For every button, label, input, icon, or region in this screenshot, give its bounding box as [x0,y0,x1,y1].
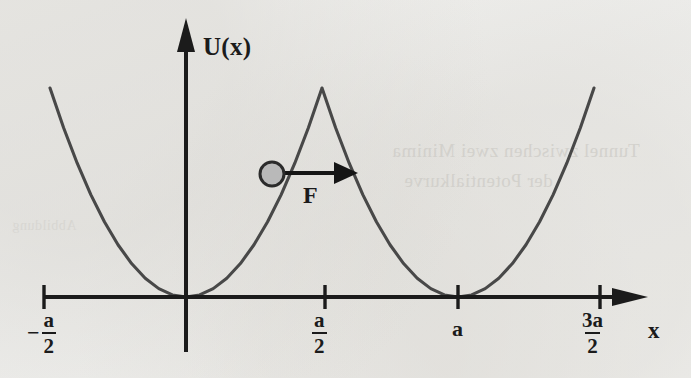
y-axis-arrowhead [177,18,195,52]
force-arrow-head [334,162,358,184]
force-label: F [303,182,318,209]
fraction-a-over-2: a 2 [312,310,327,357]
tick-label-3a-over-2: 3a 2 [580,310,605,357]
tick-label-a: a [452,316,463,342]
minus-sign: − [27,320,40,346]
fraction-3a-over-2: 3a 2 [580,310,605,357]
fraction-neg-a-over-2: a 2 [42,310,57,357]
particle-ball [260,162,284,186]
tick-label-neg-a-over-2: − a 2 [27,310,56,357]
potential-energy-curve [50,88,594,297]
x-axis-arrowhead [612,288,648,306]
x-axis-label: x [648,318,660,344]
tick-label-a-over-2: a 2 [312,310,327,357]
potential-energy-figure: Tunnel zwischen zwei Minima der Potentia… [0,0,691,378]
y-axis-label: U(x) [203,33,251,61]
